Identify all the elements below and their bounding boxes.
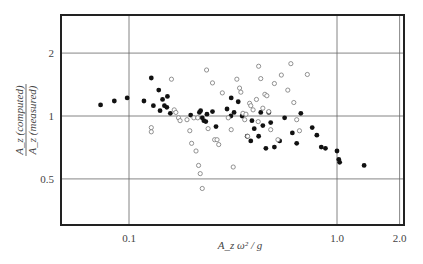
- open-data-point: [174, 110, 178, 114]
- filled-data-point: [252, 126, 257, 131]
- filled-data-point: [236, 99, 241, 104]
- open-data-point: [276, 138, 280, 142]
- x-tick-label: 2.0: [393, 232, 407, 244]
- filled-data-point: [205, 112, 210, 117]
- filled-data-point: [142, 99, 147, 104]
- open-data-point: [217, 142, 221, 146]
- open-data-point: [235, 77, 239, 81]
- x-tick-label: 0.1: [122, 232, 136, 244]
- grid-lines: [61, 15, 404, 225]
- x-tick-label: 1.0: [330, 232, 344, 244]
- y-axis-label-denominator: A_z (measured): [26, 85, 39, 155]
- open-data-point: [259, 76, 263, 80]
- open-data-point: [194, 149, 198, 153]
- y-tick-labels: 0.512: [40, 47, 54, 185]
- filled-data-point: [263, 146, 268, 151]
- filled-data-point: [125, 96, 130, 101]
- filled-data-point: [158, 108, 163, 113]
- open-data-point: [267, 109, 271, 113]
- filled-data-point: [160, 97, 165, 102]
- filled-data-point: [250, 118, 255, 123]
- open-data-point: [190, 141, 194, 145]
- open-data-point: [185, 118, 189, 122]
- open-data-point: [226, 116, 230, 120]
- open-data-point: [243, 118, 247, 122]
- filled-data-point: [151, 103, 156, 108]
- filled-data-point: [232, 110, 237, 115]
- open-data-point: [286, 88, 290, 92]
- filled-data-point: [268, 120, 273, 125]
- open-data-point: [249, 104, 253, 108]
- filled-data-point: [310, 125, 315, 130]
- filled-data-point: [98, 103, 103, 108]
- open-data-point: [196, 116, 200, 120]
- open-data-point: [229, 128, 233, 132]
- filled-data-point: [323, 146, 328, 151]
- open-data-point: [261, 106, 265, 110]
- filled-data-point: [362, 163, 367, 168]
- filled-data-point: [225, 107, 230, 112]
- y-tick-label: 1: [49, 110, 55, 122]
- open-data-point: [256, 120, 260, 124]
- filled-data-point: [203, 119, 208, 124]
- open-data-point: [272, 81, 276, 85]
- open-data-point: [169, 77, 173, 81]
- filled-data-point: [165, 94, 170, 99]
- plot-frame: [61, 15, 404, 225]
- filled-data-point: [272, 145, 277, 150]
- filled-data-point: [290, 131, 295, 136]
- filled-data-point: [198, 108, 203, 113]
- open-data-point: [289, 62, 293, 66]
- open-data-point: [149, 126, 153, 130]
- filled-data-point: [229, 96, 234, 101]
- y-tick-label: 0.5: [40, 173, 54, 185]
- open-data-point: [257, 64, 261, 68]
- open-data-point: [297, 129, 301, 133]
- open-data-point: [246, 134, 250, 138]
- open-data-point: [254, 97, 258, 101]
- open-data-point: [231, 165, 235, 169]
- x-tick-labels: 0.11.02.0: [122, 232, 407, 244]
- open-data-point: [305, 72, 309, 76]
- scatter-chart: 0.11.02.0 0.512 A_z (computed) A_z (meas…: [0, 0, 423, 264]
- filled-data-point: [298, 111, 303, 116]
- open-data-point: [244, 112, 248, 116]
- filled-data-point: [214, 124, 219, 129]
- filled-data-point: [282, 115, 287, 120]
- open-data-point: [237, 86, 241, 90]
- open-data-point: [149, 130, 153, 134]
- filled-data-point: [258, 110, 263, 115]
- y-axis-label: A_z (computed) A_z (measured): [13, 84, 39, 156]
- open-data-point: [295, 118, 299, 122]
- y-axis-label-numerator: A_z (computed): [13, 85, 26, 156]
- y-tick-label: 2: [49, 47, 55, 59]
- open-data-point: [210, 81, 214, 85]
- open-data-point: [178, 119, 182, 123]
- filled-data-point: [248, 139, 253, 144]
- filled-data-point: [164, 105, 169, 110]
- open-data-point: [292, 100, 296, 104]
- data-points: [98, 62, 366, 191]
- open-data-point: [204, 68, 208, 72]
- filled-data-point: [256, 134, 261, 139]
- filled-data-point: [337, 160, 342, 165]
- filled-data-point: [210, 109, 215, 114]
- filled-data-point: [168, 111, 173, 116]
- open-data-point: [198, 172, 202, 176]
- open-data-point: [269, 128, 273, 132]
- open-data-point: [196, 163, 200, 167]
- open-data-point: [265, 94, 269, 98]
- x-axis-label: A_z ω² / g: [217, 239, 263, 251]
- open-data-point: [220, 91, 224, 95]
- open-data-point: [279, 73, 283, 77]
- open-data-point: [206, 127, 210, 131]
- open-data-point: [239, 90, 243, 94]
- open-data-point: [251, 108, 255, 112]
- filled-data-point: [319, 145, 324, 150]
- open-data-point: [188, 129, 192, 133]
- open-data-point: [200, 186, 204, 190]
- filled-data-point: [260, 123, 265, 128]
- filled-data-point: [314, 133, 319, 138]
- filled-data-point: [112, 99, 117, 104]
- filled-data-point: [335, 149, 340, 154]
